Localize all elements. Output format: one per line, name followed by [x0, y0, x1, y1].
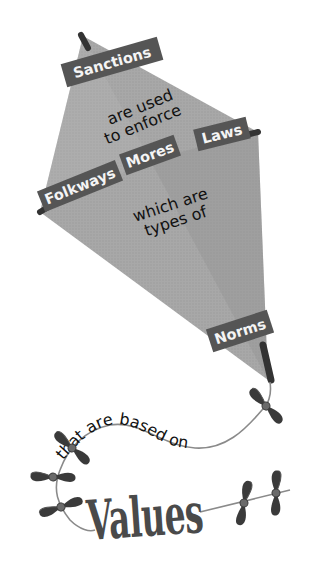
bow-icon: [258, 469, 293, 516]
diagram-canvas: Sanctions are used to enforce Folkways M…: [0, 0, 315, 568]
bow-icon: [38, 485, 85, 529]
values-label: Values: [84, 481, 205, 553]
bow-icon: [242, 387, 290, 425]
text-that-are-based-on: that are based on: [52, 409, 190, 463]
values-text: Values: [84, 481, 205, 553]
bow-icon: [29, 459, 76, 494]
kite-concept-diagram: Sanctions are used to enforce Folkways M…: [0, 0, 315, 568]
